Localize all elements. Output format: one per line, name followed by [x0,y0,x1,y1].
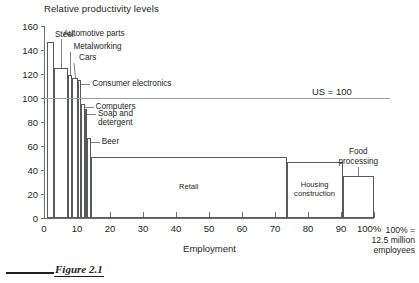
x-axis-tick-label: 20 [105,223,116,234]
leader-line [85,107,94,108]
y-axis-tick-mark [41,26,45,27]
y-axis-tick-label: 60 [4,141,38,152]
leader-line [87,114,96,115]
y-axis-tick-mark [41,194,45,195]
y-axis-tick-label: 100 [4,93,38,104]
scale-note: 100% = 12.5 million employees [339,225,415,255]
reference-line-label: US = 100 [312,86,352,97]
y-axis-tick-mark [41,50,45,51]
y-axis-tick-mark [41,146,45,147]
x-axis-tick-mark [44,212,45,218]
bar-automotive-parts [54,68,69,218]
x-axis-tick-label: 70 [270,223,281,234]
x-axis-tick-mark [374,212,375,218]
callout-automotive-parts: Automotive parts [63,29,124,39]
y-axis-tick-mark [41,170,45,171]
x-axis-tick-label: 60 [237,223,248,234]
bar-food-processing [343,176,374,218]
y-axis-tick-label: 40 [4,165,38,176]
callout-soap-and-detergent: Soap and detergent [98,109,133,128]
figure-caption: Figure 2.1 [6,263,104,277]
y-axis-tick-label: 20 [4,189,38,200]
caption-text: Figure 2.1 [54,263,104,277]
y-axis-tick-mark [41,122,45,123]
x-axis-tick-label: 0 [41,223,46,234]
x-axis-tick-label: 10 [72,223,83,234]
leader-line [70,52,71,75]
leader-line [81,84,90,85]
callout-beer: Beer [102,137,119,147]
chart-title: Relative productivity levels [44,3,159,14]
y-axis-tick-label: 80 [4,117,38,128]
callout-metalworking: Metalworking [73,42,121,52]
callout-cars: Cars [79,53,96,63]
y-axis-tick-label: 140 [4,45,38,56]
y-axis-tick-mark [41,218,45,219]
bar-label-retail: Retail [179,182,198,191]
x-axis-line [44,218,374,219]
y-axis-tick-label: 0 [4,213,38,224]
x-axis-tick-label: 30 [138,223,149,234]
callout-consumer-electronics: Consumer electronics [92,79,171,89]
bar-label-housing-construction: Housing construction [294,180,335,198]
x-axis-tick-label: 40 [171,223,182,234]
caption-rule [6,272,54,274]
x-axis-tick-label: 80 [303,223,314,234]
y-axis-tick-label: 160 [4,21,38,32]
leader-line [358,167,359,176]
leader-line [74,63,76,78]
leader-line [61,39,62,68]
callout-food-processing: Food processing [339,147,379,166]
x-axis-tick-label: 50 [204,223,215,234]
leader-line [91,142,100,143]
bar-steel [47,42,54,218]
y-axis-tick-mark [41,74,45,75]
reference-line-us-100 [44,98,390,99]
y-axis-tick-label: 120 [4,69,38,80]
figure-2-1: Relative productivity levels 02040608010… [0,0,419,283]
